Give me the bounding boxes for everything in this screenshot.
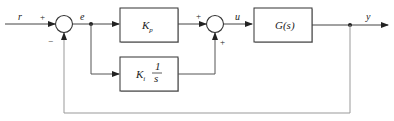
plant-block: G(s) xyxy=(254,8,313,43)
signal-r-label: r xyxy=(18,11,22,22)
integral-block: Ki 1 s xyxy=(120,57,179,92)
signal-e-label: e xyxy=(80,11,85,22)
pi-control-diagram: r + − e Kp + Ki 1 s + u G(s) y xyxy=(0,0,394,121)
signal-u-label: u xyxy=(235,11,240,22)
proportional-block: Kp xyxy=(120,8,179,43)
sum1-plus-sign: + xyxy=(40,12,45,22)
summing-junction-1 xyxy=(56,16,73,33)
sum1-minus-sign: − xyxy=(48,36,53,46)
integral-branch-line xyxy=(91,24,119,74)
integral-output-line xyxy=(178,33,215,74)
ki-numerator: 1 xyxy=(155,60,161,72)
signal-y-label: y xyxy=(365,11,371,22)
plant-label: G(s) xyxy=(275,19,295,32)
sum2-plus-bottom-sign: + xyxy=(220,37,225,47)
sum2-plus-top-sign: + xyxy=(196,11,201,21)
summing-junction-2 xyxy=(207,16,224,33)
ki-denominator: s xyxy=(154,72,158,84)
